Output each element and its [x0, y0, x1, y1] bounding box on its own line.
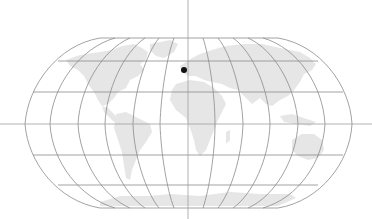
land-antarctica	[100, 192, 296, 206]
location-marker-icon[interactable]	[181, 67, 187, 73]
world-map[interactable]	[0, 0, 372, 219]
land-africa	[170, 80, 226, 156]
land-madagascar	[226, 130, 230, 144]
land-australia	[292, 134, 324, 160]
land-greenland	[150, 40, 178, 58]
